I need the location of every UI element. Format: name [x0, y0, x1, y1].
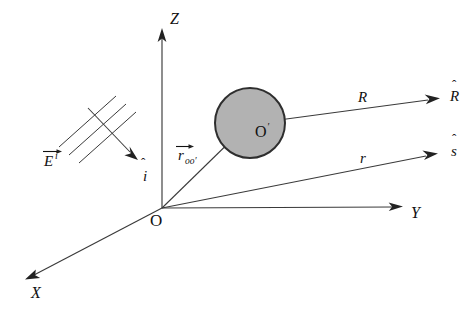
r-oo-prime-label: r oo′ [176, 144, 198, 166]
incident-direction-line [88, 108, 130, 152]
r-oo-prime-subscript: oo′ [185, 156, 198, 166]
incident-field-superscript: i [55, 150, 58, 161]
global-origin-label: O [150, 211, 162, 230]
x-axis-line [34, 208, 162, 275]
i-hat-base: i [143, 168, 147, 184]
scatterer-sphere [215, 88, 285, 158]
y-axis [162, 202, 403, 211]
incident-field-label: E i [43, 149, 62, 169]
x-axis-arrowhead [25, 270, 40, 280]
incident-field-base: E [43, 153, 53, 169]
wavefront-line-1 [59, 96, 116, 147]
z-axis-label: Z [170, 10, 180, 27]
y-axis-line [162, 207, 393, 208]
scattering-diagram-canvas: Z Y X O O ′ r oo′ R ˆ R r ˆ s [0, 0, 475, 311]
x-axis-label: X [30, 284, 42, 301]
r-ray [162, 151, 438, 208]
R-hat-label: ˆ R [449, 77, 459, 104]
R-ray-arrowhead [425, 95, 440, 105]
s-hat-label: ˆ s [451, 131, 457, 159]
wavefront-line-2 [69, 104, 126, 155]
R-magnitude-label: R [357, 89, 367, 105]
s-hat-base: s [451, 143, 457, 159]
r-oo-prime-overbar-tip [189, 144, 195, 149]
r-ray-arrowhead [422, 151, 438, 161]
R-hat-base: R [449, 88, 459, 104]
local-origin-letter: O [255, 123, 267, 140]
r-magnitude-label: r [360, 150, 366, 166]
r-oo-prime-base: r [178, 147, 184, 163]
y-axis-label: Y [411, 204, 422, 221]
r-ray-line [162, 156, 426, 208]
x-axis [25, 208, 162, 280]
scattering-diagram-figure: Z Y X O O ′ r oo′ R ˆ R r ˆ s [0, 0, 475, 311]
z-axis [158, 28, 167, 208]
incident-direction-label: ˆ i [141, 155, 147, 184]
incident-wavefronts [59, 96, 136, 163]
